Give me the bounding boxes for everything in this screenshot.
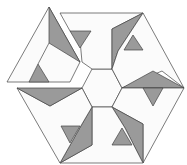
hexagon-puzzle-diagram — [0, 0, 187, 165]
